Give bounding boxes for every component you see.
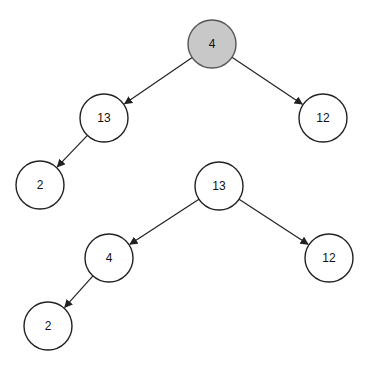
tree-node: 2 bbox=[24, 302, 72, 350]
edge-arrow bbox=[125, 58, 193, 104]
tree-node: 2 bbox=[16, 161, 64, 209]
edge-arrow bbox=[239, 199, 308, 244]
node-value: 2 bbox=[37, 178, 44, 192]
tree-node: 4 bbox=[85, 234, 133, 282]
node-value: 2 bbox=[45, 319, 52, 333]
nodes-layer: 413122134122 bbox=[16, 20, 353, 350]
node-value: 4 bbox=[106, 251, 113, 265]
tree-node: 4 bbox=[188, 20, 236, 68]
tree-node: 13 bbox=[80, 94, 128, 142]
node-value: 12 bbox=[316, 111, 330, 125]
edge-arrow bbox=[232, 57, 302, 104]
edge-arrow bbox=[130, 199, 199, 244]
tree-diagram: 413122134122 bbox=[0, 0, 369, 368]
tree-node: 12 bbox=[299, 94, 347, 142]
node-value: 12 bbox=[322, 251, 336, 265]
tree-node: 13 bbox=[195, 162, 243, 210]
tree-node: 12 bbox=[305, 234, 353, 282]
node-value: 4 bbox=[209, 37, 216, 51]
node-value: 13 bbox=[97, 111, 111, 125]
edge-arrow bbox=[65, 276, 93, 308]
node-value: 13 bbox=[212, 179, 226, 193]
edge-arrow bbox=[57, 135, 87, 167]
